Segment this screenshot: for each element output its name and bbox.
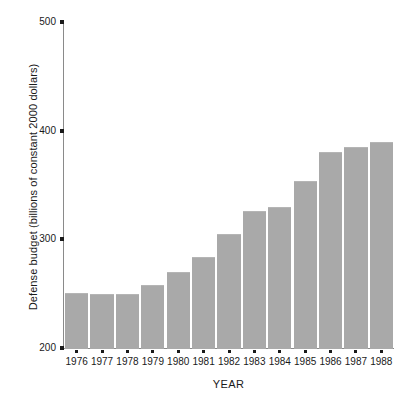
y-tick-mark: [60, 20, 64, 24]
x-tick-mark: [278, 350, 281, 353]
y-axis-title: Defense budget (billions of constant 200…: [22, 22, 44, 352]
x-tick-mark: [177, 350, 180, 353]
bar: [243, 211, 266, 349]
x-tick-mark: [354, 350, 357, 353]
bar: [65, 293, 88, 349]
x-tick-mark: [75, 350, 78, 353]
x-tick-mark: [253, 350, 256, 353]
y-tick-mark: [60, 237, 64, 241]
bar: [116, 294, 139, 349]
bar: [294, 181, 317, 349]
x-tick-mark: [202, 350, 205, 353]
x-tick-mark: [228, 350, 231, 353]
bar: [90, 294, 113, 349]
y-axis-line: [63, 22, 64, 349]
y-tick-label: 500: [16, 17, 56, 27]
bar: [268, 207, 291, 349]
y-tick-label: 200: [16, 343, 56, 353]
bar: [141, 285, 164, 349]
y-tick-mark: [60, 129, 64, 133]
bar: [192, 257, 215, 349]
bar: [217, 234, 240, 349]
x-tick-mark: [329, 350, 332, 353]
x-tick-mark: [151, 350, 154, 353]
bar: [370, 142, 393, 349]
x-axis-title: YEAR: [63, 378, 394, 390]
x-tick-mark: [126, 350, 129, 353]
bar: [319, 152, 342, 349]
y-tick-mark: [60, 346, 64, 350]
bar: [167, 272, 190, 349]
y-tick-label: 400: [16, 126, 56, 136]
x-tick-mark: [101, 350, 104, 353]
bar: [344, 147, 367, 349]
x-tick-label: 1988: [361, 356, 401, 367]
y-tick-label: 300: [16, 234, 56, 244]
x-tick-mark: [380, 350, 383, 353]
bar-chart: Defense budget (billions of constant 200…: [0, 0, 406, 406]
x-tick-mark: [304, 350, 307, 353]
